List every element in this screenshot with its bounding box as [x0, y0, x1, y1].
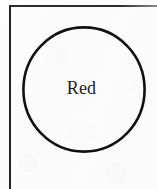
- circle-label-text: Red: [0, 78, 157, 98]
- figure-canvas: Red: [0, 0, 157, 189]
